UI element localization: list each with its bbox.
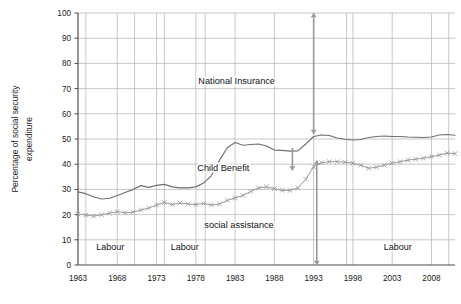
x-tick-label: 1963	[69, 274, 88, 283]
x-tick-label: 1968	[108, 274, 127, 283]
annotation-child-benefit: Child Benefit	[197, 163, 250, 173]
period-label-labour-1: Labour	[96, 242, 124, 252]
y-tick-label: 80	[62, 59, 72, 68]
chart-container: 0102030405060708090100 19631968197319781…	[0, 0, 461, 304]
x-tick-label: 2008	[422, 274, 441, 283]
y-tick-label: 0	[66, 261, 71, 270]
y-tick-label: 30	[62, 185, 72, 194]
period-label-labour-2: Labour	[171, 242, 199, 252]
y-tick-label: 10	[62, 236, 72, 245]
annotation-national-insurance: National Insurance	[198, 76, 275, 86]
y-tick-label: 50	[62, 135, 72, 144]
y-tick-label: 60	[62, 110, 72, 119]
x-tick-label: 1993	[305, 274, 324, 283]
social-security-expenditure-chart: 0102030405060708090100 19631968197319781…	[0, 0, 461, 304]
x-tick-label: 1998	[344, 274, 363, 283]
y-tick-label: 90	[62, 34, 72, 43]
y-tick-label: 40	[62, 160, 72, 169]
y-tick-label: 100	[57, 9, 71, 18]
x-tick-label: 1973	[147, 274, 166, 283]
y-axis-title-line-2: expenditure	[24, 117, 34, 161]
x-tick-label: 1983	[226, 274, 245, 283]
period-label-labour-3: Labour	[384, 242, 412, 252]
y-tick-label: 20	[62, 211, 72, 220]
x-tick-label: 1988	[265, 274, 284, 283]
x-tick-label: 2003	[383, 274, 402, 283]
annotation-social-assistance: social assistance	[204, 220, 273, 230]
x-tick-label: 1978	[187, 274, 206, 283]
y-axis-title-line-1: Percentage of social security	[10, 85, 20, 193]
y-tick-label: 70	[62, 85, 72, 94]
